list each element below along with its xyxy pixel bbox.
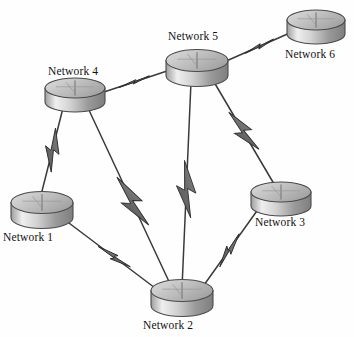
link-network-4-to-network-5 bbox=[104, 70, 170, 92]
network-topology-diagram: Figure Network 1Network 2Net bbox=[0, 0, 354, 337]
node-label-network-2: Network 2 bbox=[143, 319, 193, 331]
link-network-5-to-network-6 bbox=[224, 32, 292, 62]
node-label-network-3: Network 3 bbox=[255, 216, 305, 228]
link-network-4-to-network-1 bbox=[40, 108, 65, 199]
link-network-1-to-network-2 bbox=[65, 220, 163, 294]
router-node-network-1[interactable] bbox=[11, 192, 73, 229]
lightning-bolt-icon bbox=[215, 232, 244, 268]
node-label-network-4: Network 4 bbox=[48, 65, 98, 77]
link-network-3-to-network-2 bbox=[199, 208, 259, 292]
router-node-network-5[interactable] bbox=[166, 50, 228, 87]
router-node-network-4[interactable] bbox=[45, 78, 105, 112]
lightning-bolt-icon bbox=[224, 107, 262, 156]
router-node-network-6[interactable] bbox=[287, 10, 345, 44]
node-label-network-6: Network 6 bbox=[285, 48, 335, 60]
link-network-5-to-network-3 bbox=[214, 82, 277, 189]
router-node-network-3[interactable] bbox=[251, 182, 311, 216]
router-node-network-2[interactable] bbox=[151, 280, 213, 317]
lightning-bolt-icon bbox=[244, 38, 275, 55]
lightning-bolt-icon bbox=[40, 127, 65, 173]
lightning-bolt-icon bbox=[119, 75, 151, 88]
node-label-network-1: Network 1 bbox=[3, 231, 53, 243]
node-label-network-5: Network 5 bbox=[168, 30, 218, 42]
link-network-4-to-network-2 bbox=[88, 108, 172, 288]
link-network-5-to-network-2 bbox=[175, 82, 197, 288]
lightning-bolt-icon bbox=[111, 172, 153, 232]
